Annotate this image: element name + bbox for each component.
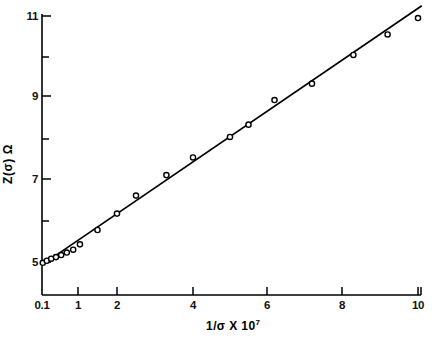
y-tick-label: 7 xyxy=(22,173,38,185)
x-axis-ticks xyxy=(42,287,421,295)
data-point xyxy=(95,227,100,232)
plot-area xyxy=(0,0,440,339)
x-tick-label: 1 xyxy=(75,299,81,311)
data-point-markers xyxy=(40,15,420,265)
x-tick-label: 6 xyxy=(264,299,270,311)
data-point xyxy=(164,172,169,177)
data-point xyxy=(272,97,277,102)
x-tick-label: 4 xyxy=(190,299,196,311)
x-tick-label: 10 xyxy=(412,299,424,311)
x-axis-title: 1/σ X 107 xyxy=(206,318,260,333)
data-point xyxy=(133,193,138,198)
data-point xyxy=(77,242,82,247)
x-axis-title-exponent: 7 xyxy=(255,318,259,327)
y-tick-label: 11 xyxy=(22,10,38,22)
y-axis-title: Z(σ) Ω xyxy=(1,144,15,184)
x-axis-title-text: 1/σ X 10 xyxy=(206,319,255,333)
data-point xyxy=(415,15,420,20)
data-point xyxy=(59,252,64,257)
x-tick-label: 0.1 xyxy=(34,299,49,311)
y-axis-minor-ticks xyxy=(42,57,49,221)
y-tick-label: 5 xyxy=(22,256,38,268)
data-point xyxy=(53,254,58,259)
data-point xyxy=(190,155,195,160)
x-tick-label: 2 xyxy=(114,299,120,311)
x-tick-label: 8 xyxy=(339,299,345,311)
y-tick-label: 9 xyxy=(22,90,38,102)
data-point xyxy=(64,250,69,255)
figure-container: 0.11246810 57911 1/σ X 107 Z(σ) Ω xyxy=(0,0,440,339)
data-point xyxy=(309,81,314,86)
data-point xyxy=(385,32,390,37)
data-point xyxy=(246,122,251,127)
data-point xyxy=(71,247,76,252)
data-point xyxy=(114,211,119,216)
axis-lines xyxy=(42,14,421,295)
data-point xyxy=(351,52,356,57)
data-point xyxy=(227,134,232,139)
